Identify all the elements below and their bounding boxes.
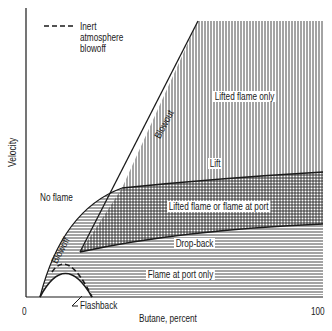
label-flame-at-port-only: Flame at port only bbox=[146, 269, 215, 280]
y-axis-label: Velocity bbox=[7, 138, 18, 167]
x-axis-max: 100 bbox=[311, 306, 325, 317]
legend-line-2: atmosphere bbox=[80, 32, 123, 43]
x-axis-min: 0 bbox=[22, 306, 27, 317]
label-lifted-flame-only: Lifted flame only bbox=[213, 91, 276, 102]
label-flashback: Flashback bbox=[80, 300, 117, 311]
legend-line-3: blowoff bbox=[80, 43, 106, 54]
region-lifted-flame-only bbox=[122, 21, 323, 188]
x-axis-label: Butane, percent bbox=[139, 313, 197, 324]
stability-diagram bbox=[0, 0, 332, 331]
label-lifted-or-port: Lifted flame or flame at port bbox=[167, 201, 270, 212]
legend-line-1: Inert bbox=[80, 21, 96, 32]
label-drop-back: Drop-back bbox=[174, 238, 215, 249]
label-lift: Lift bbox=[208, 158, 222, 169]
label-no-flame: No flame bbox=[40, 192, 73, 203]
